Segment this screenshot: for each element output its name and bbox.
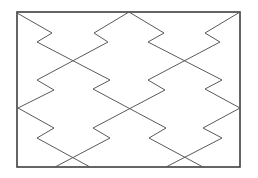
zigzag-path-a3 [18,108,90,167]
zigzag-path-a1 [17,13,203,167]
zigzag-path-b2 [55,12,240,167]
zigzag-path-b1 [129,12,240,108]
zigzag-path-b3 [166,108,240,167]
zigzag-path-a2 [18,12,129,108]
zigzag-diagram [0,0,258,178]
zigzag-lines [17,12,240,167]
